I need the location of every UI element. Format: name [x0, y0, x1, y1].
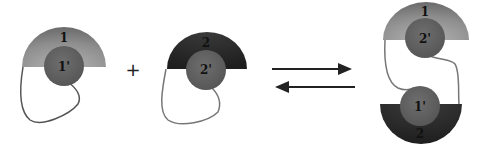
monomer-b: 2 2' [162, 32, 247, 124]
monomer-b-inner-label: 2' [200, 63, 212, 77]
equilibrium-arrows [272, 69, 355, 87]
monomer-a-inner-label: 1' [58, 60, 70, 74]
dimer-bottom-inner-label: 1' [414, 100, 426, 114]
monomer-a-outer-label: 1 [60, 31, 68, 45]
plus-operator: + [125, 59, 140, 80]
domain-swap-diagram: 1 1' + 2 2' 1 2' 1' 2 [0, 0, 478, 150]
monomer-b-outer-label: 2 [202, 36, 210, 50]
dimer-top-outer-label: 1 [421, 5, 429, 19]
dimer-top-inner-label: 2' [419, 32, 431, 46]
monomer-a: 1 1' [21, 27, 106, 122]
domain-swapped-dimer: 1 2' 1' 2 [380, 2, 469, 144]
dimer-bottom-outer-label: 2 [416, 127, 424, 141]
